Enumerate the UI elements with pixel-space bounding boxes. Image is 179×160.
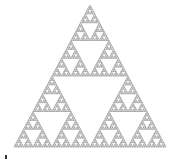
caption-row [0, 155, 179, 160]
marker-icon [5, 155, 7, 159]
sierpinski-triangle [0, 0, 179, 160]
fractal-path [14, 5, 166, 147]
